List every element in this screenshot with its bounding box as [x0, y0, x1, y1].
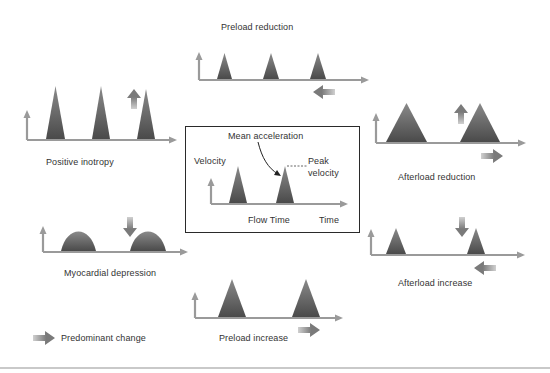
arrow-right-icon — [481, 149, 503, 163]
label-afterload-increase: Afterload increase — [398, 278, 472, 288]
x-axis-arrowhead-icon — [335, 315, 343, 322]
waveform-peak — [218, 279, 246, 317]
y-axis-arrowhead-icon — [192, 292, 199, 300]
label-mean-acceleration: Mean acceleration — [228, 131, 303, 141]
waveform-peak — [130, 232, 166, 252]
panel-positive-inotropy — [24, 86, 178, 144]
waveform-peak — [263, 53, 279, 79]
label-afterload-reduction: Afterload reduction — [398, 172, 475, 182]
waveform-peak — [217, 53, 232, 79]
label-flow-time: Flow Time — [248, 215, 290, 225]
y-axis-arrowhead-icon — [368, 229, 375, 237]
waveform-peak — [386, 228, 406, 254]
y-axis-arrowhead-icon — [373, 113, 380, 121]
label-peak: Peak — [308, 156, 329, 166]
y-axis-arrowhead-icon — [40, 226, 47, 234]
arrow-left-icon — [474, 261, 496, 275]
x-axis-arrowhead-icon — [518, 140, 526, 147]
waveform-peak — [292, 279, 320, 317]
panel-myocardial-depression — [40, 217, 189, 256]
arrow-up-icon — [454, 104, 468, 124]
waveform-peak — [92, 86, 110, 139]
y-axis-arrowhead-icon — [196, 52, 203, 60]
arrow-down-icon — [455, 217, 469, 237]
label-time: Time — [319, 215, 339, 225]
waveform-peak — [386, 103, 427, 142]
arrow-left-icon — [313, 85, 335, 99]
label-preload-reduction: Preload reduction — [221, 22, 293, 32]
x-axis-arrowhead-icon — [361, 77, 369, 84]
label-myocardial-depression: Myocardial depression — [64, 268, 156, 278]
waveform-peak — [460, 103, 500, 142]
x-axis-arrowhead-icon — [517, 252, 525, 259]
panel-preload-increase — [192, 279, 344, 337]
hemodynamic-doppler-diagram: Preload reduction Positive inotropy Afte… — [0, 0, 550, 373]
bottom-divider — [0, 367, 550, 369]
arrow-down-icon — [123, 217, 137, 237]
legend-label: Predominant change — [61, 333, 146, 343]
arrow-right-icon — [298, 323, 320, 337]
panel-preload-reduction — [196, 52, 370, 99]
y-axis-arrowhead-icon — [24, 110, 31, 118]
x-axis-arrowhead-icon — [169, 137, 177, 144]
panel-afterload-reduction — [373, 103, 527, 163]
waveform-peak — [310, 53, 326, 79]
arrow-up-icon — [127, 89, 141, 109]
label-velocity: Velocity — [194, 156, 226, 166]
label-preload-increase: Preload increase — [219, 333, 288, 343]
label-peak-velocity: velocity — [308, 168, 339, 178]
waveform-peak — [61, 232, 96, 252]
waveform-peak — [467, 228, 485, 254]
label-positive-inotropy: Positive inotropy — [46, 157, 114, 167]
panel-afterload-increase — [368, 217, 526, 275]
x-axis-arrowhead-icon — [180, 249, 188, 256]
arrow-right-icon — [33, 331, 55, 345]
waveform-peak — [46, 86, 65, 139]
